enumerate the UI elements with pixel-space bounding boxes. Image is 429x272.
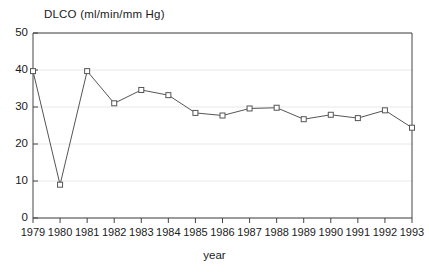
data-series-markers [31, 69, 415, 188]
data-point-1986 [220, 113, 225, 118]
data-point-1984 [166, 93, 171, 98]
y-tick-label-20: 20 [6, 138, 28, 150]
data-point-1983 [139, 87, 144, 92]
x-axis-title: year [0, 249, 429, 261]
axis-ticks [33, 33, 412, 223]
y-tick-label-50: 50 [6, 27, 28, 39]
y-tick-label-40: 40 [6, 64, 28, 76]
x-tick-label-1993: 1993 [396, 227, 428, 238]
dlco-line-chart: DLCO (ml/min/mm Hg) 01020304050 19791980… [0, 0, 429, 272]
data-point-1992 [382, 108, 387, 113]
gridlines [33, 33, 412, 218]
data-point-1980 [58, 182, 63, 187]
y-tick-label-10: 10 [6, 175, 28, 187]
data-point-1991 [355, 116, 360, 121]
data-point-1979 [31, 69, 36, 74]
y-tick-label-30: 30 [6, 101, 28, 113]
data-point-1987 [247, 106, 252, 111]
data-point-1981 [85, 69, 90, 74]
axis-lines [33, 33, 412, 218]
y-tick-label-0: 0 [6, 212, 28, 224]
data-point-1993 [410, 125, 415, 130]
data-point-1985 [193, 110, 198, 115]
series-polyline [33, 71, 412, 185]
data-point-1989 [301, 117, 306, 122]
data-point-1990 [328, 112, 333, 117]
data-point-1982 [112, 101, 117, 106]
data-series-line [33, 71, 412, 185]
data-point-1988 [274, 105, 279, 110]
